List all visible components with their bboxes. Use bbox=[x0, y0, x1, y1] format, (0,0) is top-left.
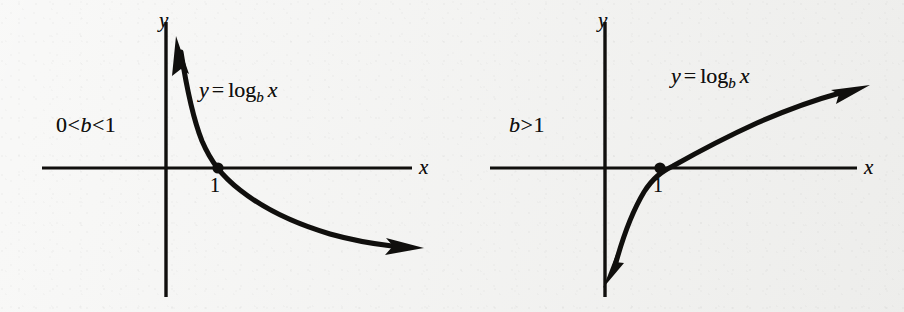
condition-label-left: 0<b<1 bbox=[56, 114, 116, 136]
log-curve-right bbox=[603, 85, 870, 288]
tick-label-one-right: 1 bbox=[653, 175, 663, 195]
formula-base-subscript: b bbox=[728, 75, 739, 91]
plot-right bbox=[452, 0, 904, 312]
formula-argument: x bbox=[740, 63, 750, 88]
log-curve-left bbox=[172, 36, 424, 255]
intersection-dot-left bbox=[212, 162, 223, 173]
condition-value: 1 bbox=[533, 112, 545, 137]
formula-log: log bbox=[227, 77, 256, 102]
formula-lhs: y bbox=[199, 77, 209, 102]
formula-log: log bbox=[699, 63, 728, 88]
curve-arrowhead-up-left bbox=[172, 36, 189, 76]
formula-equals: = bbox=[681, 63, 699, 88]
axes-left bbox=[42, 22, 412, 297]
tick-label-one-left: 1 bbox=[210, 175, 220, 195]
condition-base: b bbox=[509, 112, 521, 137]
condition-value: 1 bbox=[105, 112, 117, 137]
formula-equals: = bbox=[209, 77, 227, 102]
y-axis-label: y bbox=[159, 10, 168, 31]
intersection-dot-right bbox=[654, 162, 665, 173]
y-axis-label: y bbox=[598, 10, 607, 31]
formula-base-subscript: b bbox=[256, 89, 267, 105]
condition-label-right: b>1 bbox=[509, 114, 545, 136]
x-axis-label: x bbox=[419, 157, 428, 178]
condition-rel1: < bbox=[68, 112, 81, 137]
formula-argument: x bbox=[268, 77, 278, 102]
figure-canvas: y x 0<b<1 y=logbx 1 y x b>1 bbox=[0, 0, 904, 312]
condition-rel2: > bbox=[521, 112, 534, 137]
x-axis-label: x bbox=[864, 157, 873, 178]
formula-label-right: y=logbx bbox=[671, 65, 750, 91]
panel-increasing-log: y x b>1 y=logbx 1 bbox=[452, 0, 904, 312]
condition-base: b bbox=[80, 112, 92, 137]
plot-left bbox=[0, 0, 452, 312]
formula-lhs: y bbox=[671, 63, 681, 88]
condition-prefix: 0 bbox=[56, 112, 68, 137]
formula-label-left: y=logbx bbox=[199, 79, 278, 105]
condition-rel2: < bbox=[92, 112, 105, 137]
panel-decreasing-log: y x 0<b<1 y=logbx 1 bbox=[0, 0, 452, 312]
